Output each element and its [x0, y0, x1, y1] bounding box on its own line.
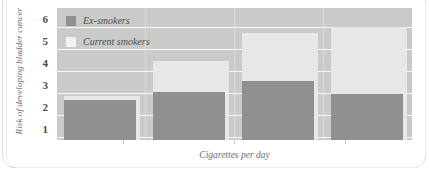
bar-ex-smokers-1: [64, 100, 136, 140]
legend-item-ex-smokers: Ex-smokers: [66, 13, 150, 28]
x-tick-1: [123, 140, 124, 144]
bar-chart: 6 5 4 3 2 1 Risk of developing bladder c…: [0, 0, 429, 173]
legend: Ex-smokers Current smokers: [66, 13, 150, 55]
y-tick-label-2: 2: [28, 102, 48, 113]
legend-swatch-icon-current-smokers: [66, 37, 76, 47]
legend-label-ex-smokers: Ex-smokers: [83, 15, 130, 26]
y-tick-label-5: 5: [28, 36, 48, 47]
y-axis-title: Risk of developing bladder cancer: [14, 1, 24, 141]
bar-ex-smokers-2: [153, 92, 225, 140]
x-tick-2: [234, 140, 235, 144]
x-tick-3: [345, 140, 346, 144]
y-tick-label-1: 1: [28, 124, 48, 135]
category-separator-3: [323, 8, 324, 140]
figure-card: 6 5 4 3 2 1 Risk of developing bladder c…: [0, 0, 429, 173]
x-axis-title: Cigarettes per day: [57, 150, 412, 160]
y-tick-label-6: 6: [28, 14, 48, 25]
legend-swatch-icon-ex-smokers: [66, 16, 76, 26]
category-separator-2: [234, 8, 235, 140]
legend-item-current-smokers: Current smokers: [66, 34, 150, 49]
legend-label-current-smokers: Current smokers: [83, 36, 150, 47]
y-tick-label-3: 3: [28, 80, 48, 91]
bar-ex-smokers-4: [331, 94, 403, 140]
y-tick-label-4: 4: [28, 58, 48, 69]
bar-ex-smokers-3: [242, 81, 314, 140]
